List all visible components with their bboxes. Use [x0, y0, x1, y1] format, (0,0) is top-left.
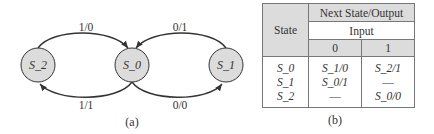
state-diagram: 1/0 0/1 1/1 0/0 S_2 S_0 S_1 (a): [0, 0, 260, 134]
header-state: State: [263, 4, 309, 57]
state-cell: S_2: [263, 89, 308, 103]
header-next-state-output: Next State/Output: [309, 4, 415, 22]
state-table: State Next State/Output Input 0 1 S_0 S_…: [262, 3, 415, 108]
edge-label-s1-s0: 0/1: [173, 21, 188, 33]
node-s2: S_2: [21, 48, 55, 82]
caption-a: (a): [125, 115, 138, 129]
edge-s1-to-s0: [136, 33, 226, 48]
node-label-s1: S_1: [217, 58, 235, 72]
header-input-0: 0: [309, 40, 362, 57]
edge-s0-to-s2: [40, 82, 132, 97]
next-state-cell: S_1/0: [309, 61, 361, 75]
edge-label-s0-s2: 1/1: [79, 99, 94, 111]
state-cell: S_1: [263, 75, 308, 89]
next-state-cell: —: [362, 75, 414, 89]
next-state-cell: S_0/1: [309, 75, 361, 89]
edge-s2-to-s0: [38, 33, 128, 48]
state-cell: S_0: [263, 61, 308, 75]
edge-label-s0-s1: 0/0: [173, 99, 188, 111]
next-state-cell: S_2/1: [362, 61, 414, 75]
edge-label-s2-s0: 1/0: [79, 21, 94, 33]
next-state-cell: S_0/0: [362, 89, 414, 103]
caption-b: (b): [328, 113, 342, 128]
node-s0: S_0: [115, 48, 149, 82]
input-1-column: S_2/1 — S_0/0: [362, 57, 415, 108]
header-input-1: 1: [362, 40, 415, 57]
input-0-column: S_1/0 S_0/1 —: [309, 57, 362, 108]
edge-s0-to-s1: [132, 82, 222, 97]
node-label-s2: S_2: [29, 58, 47, 72]
node-s1: S_1: [209, 48, 243, 82]
header-input: Input: [309, 22, 415, 40]
state-column: S_0 S_1 S_2: [263, 57, 309, 108]
node-label-s0: S_0: [123, 58, 141, 72]
next-state-cell: —: [309, 89, 361, 103]
